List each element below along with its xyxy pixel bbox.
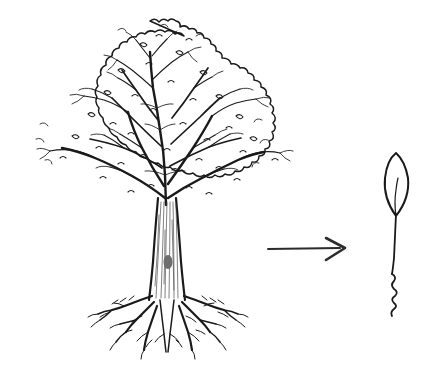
leaf-vein	[395, 178, 398, 216]
transformation-arrow	[268, 238, 345, 260]
seedling-sprout	[385, 153, 409, 316]
mature-tree	[36, 19, 293, 359]
canopy-branches	[37, 31, 293, 205]
arrow-shaft	[268, 248, 340, 249]
canopy-leaf-marks	[60, 35, 278, 195]
illustration-canvas: Mature tree transforming into a seedling…	[0, 0, 427, 383]
trunk-knot	[164, 255, 173, 269]
bark-texture	[155, 202, 178, 298]
seedling-stem	[392, 214, 396, 274]
seedling-root-tail	[391, 274, 396, 316]
ground-hatching	[112, 296, 224, 304]
tree-roots	[88, 296, 248, 359]
tree-to-seedling-illustration	[0, 0, 427, 383]
tree-trunk	[149, 198, 185, 300]
